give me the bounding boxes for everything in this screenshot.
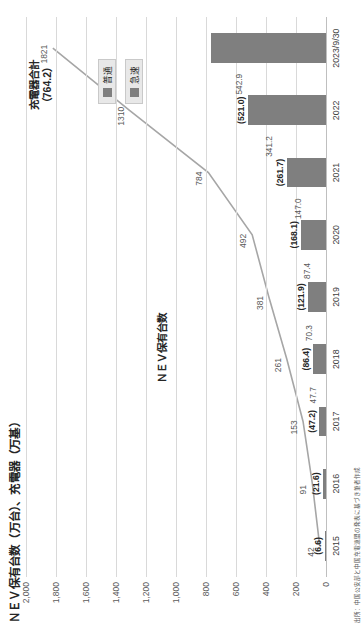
- bar-value-label: (261.7): [275, 159, 285, 186]
- x-axis-tick: 2015: [331, 536, 341, 556]
- bar-value-label: (168.1): [289, 221, 299, 248]
- line-point-label: 492: [238, 234, 248, 248]
- bar-value-label: (47.2): [307, 410, 317, 432]
- line-point-label: 42: [306, 547, 316, 556]
- y-axis-tick: 800: [201, 582, 211, 596]
- gridline: [26, 17, 27, 577]
- charger-total-value: （764.2）: [41, 60, 54, 110]
- bar-charger-total: [323, 469, 326, 499]
- line-point-label: 1310: [116, 107, 126, 126]
- gridline: [56, 17, 57, 577]
- bar-charger-total: [308, 282, 326, 312]
- chart-legend: 普通急速: [98, 59, 143, 104]
- bar-charger-total: [313, 344, 326, 374]
- x-axis-tick: 2020: [331, 225, 341, 245]
- rotated-figure-wrapper: ＮＥＶ保有台数（万台）、充電器（万基） 02004006008001,0001,…: [0, 0, 363, 629]
- y-axis-tick: 0: [321, 582, 331, 587]
- y-axis-tick: 1,400: [111, 582, 121, 603]
- x-axis-tick: 2019: [331, 287, 341, 307]
- series-label-nev: ＮＥＶ保有台数: [154, 313, 169, 383]
- legend-item[interactable]: 急速: [125, 59, 143, 104]
- y-axis-tick: 600: [231, 582, 241, 596]
- y-axis-tick: 1,600: [81, 582, 91, 603]
- y-axis-tick: 2,000: [21, 582, 31, 603]
- x-axis-tick: 2023/9/30: [331, 29, 341, 68]
- bar-sub-value-label: 341.2: [264, 136, 274, 157]
- gridline: [146, 17, 147, 577]
- legend-swatch-icon: [130, 88, 139, 97]
- bar-charger-total: [325, 531, 326, 561]
- gridline: [326, 17, 327, 577]
- y-axis-tick: 1,800: [51, 582, 61, 603]
- y-axis-tick: 200: [291, 582, 301, 596]
- bar-sub-value-label: 87.4: [302, 263, 312, 279]
- gridline: [86, 17, 87, 577]
- legend-swatch-icon: [103, 88, 112, 97]
- legend-label: 急速: [128, 66, 140, 84]
- charger-total-text: 充電器合計: [28, 60, 41, 110]
- line-point-label: 153: [289, 420, 299, 434]
- y-axis-tick: 1,000: [171, 582, 181, 603]
- bar-sub-value-label: 70.3: [304, 325, 314, 341]
- x-axis-tick: 2016: [331, 474, 341, 494]
- x-axis-tick: 2022: [331, 101, 341, 121]
- y-axis-tick: 400: [261, 582, 271, 596]
- gridline: [176, 17, 177, 577]
- x-axis-tick: 2021: [331, 163, 341, 183]
- x-axis-tick: 2017: [331, 412, 341, 432]
- line-point-label: 261: [273, 358, 283, 372]
- source-note: 出所：中国公安部と中国充電連盟の発表に基づき筆者作成: [353, 467, 361, 623]
- axis-title: ＮＥＶ保有台数（万台）、充電器（万基）: [6, 416, 22, 623]
- bar-sub-value-label: 542.9: [234, 74, 244, 95]
- legend-label: 普通: [101, 66, 113, 84]
- bar-value-label: (121.9): [296, 283, 306, 310]
- bar-charger-total: [319, 407, 326, 437]
- bar-sub-value-label: 147.0: [293, 198, 303, 219]
- plot-area: 02004006008001,0001,2001,4001,6001,8002,…: [26, 17, 326, 577]
- bar-charger-total: [301, 220, 326, 250]
- gridline: [206, 17, 207, 577]
- line-point-label: 784: [194, 171, 204, 185]
- x-axis-tick: 2018: [331, 349, 341, 369]
- bar-value-label: (21.6): [311, 472, 321, 494]
- bar-value-label: (86.4): [301, 348, 311, 370]
- chart-figure: ＮＥＶ保有台数（万台）、充電器（万基） 02004006008001,0001,…: [0, 0, 363, 629]
- bar-sub-value-label: 47.7: [308, 387, 318, 403]
- bar-charger-total: [248, 95, 326, 125]
- legend-item[interactable]: 普通: [98, 59, 116, 104]
- line-point-label: 381: [255, 296, 265, 310]
- line-point-label: 91: [298, 485, 308, 494]
- bar-value-label: (521.0): [236, 97, 246, 124]
- bar-charger-total: [211, 33, 326, 63]
- bar-charger-total: [287, 158, 326, 188]
- y-axis-tick: 1,200: [141, 582, 151, 603]
- series-label-charger-total: 充電器合計 （764.2）: [28, 60, 54, 110]
